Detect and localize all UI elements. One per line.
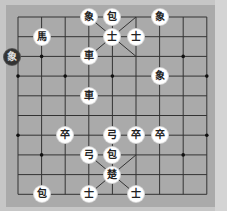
selected-piece-elephant[interactable]: 象 bbox=[4, 49, 20, 65]
piece-soldier[interactable]: 卒 bbox=[152, 127, 168, 143]
position-marker bbox=[181, 55, 185, 59]
position-marker bbox=[16, 133, 20, 137]
piece-advisor[interactable]: 士 bbox=[104, 29, 120, 45]
position-marker bbox=[205, 74, 209, 78]
piece-advisor[interactable]: 士 bbox=[128, 29, 144, 45]
position-marker bbox=[111, 74, 115, 78]
position-marker bbox=[205, 133, 209, 137]
piece-advisor[interactable]: 士 bbox=[81, 186, 97, 202]
piece-general[interactable]: 楚 bbox=[104, 167, 120, 183]
piece-chariot[interactable]: 車 bbox=[81, 88, 97, 104]
piece-elephant[interactable]: 象 bbox=[81, 9, 97, 25]
piece-horse[interactable]: 馬 bbox=[34, 29, 50, 45]
piece-elephant[interactable]: 象 bbox=[152, 68, 168, 84]
side-strip bbox=[215, 0, 227, 211]
piece-cannon[interactable]: 包 bbox=[34, 186, 50, 202]
position-marker bbox=[16, 74, 20, 78]
position-marker bbox=[63, 74, 67, 78]
position-marker bbox=[40, 153, 44, 157]
position-marker bbox=[181, 153, 185, 157]
piece-bow[interactable]: 弓 bbox=[81, 147, 97, 163]
piece-elephant[interactable]: 象 bbox=[152, 9, 168, 25]
position-marker bbox=[40, 55, 44, 59]
